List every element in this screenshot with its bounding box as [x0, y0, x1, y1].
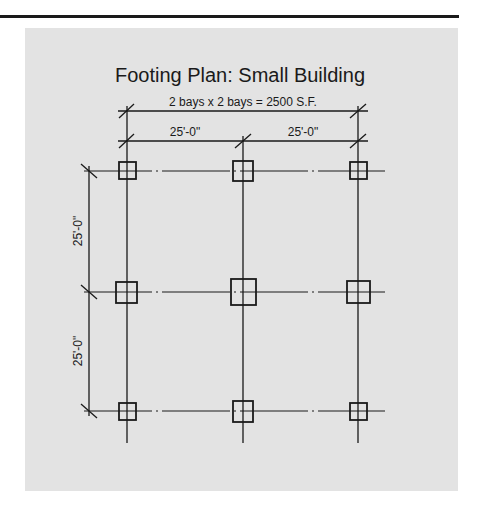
grid-lines — [84, 171, 385, 411]
footing-plan-diagram: Footing Plan: Small Building 2 bays x 2 … — [0, 0, 483, 523]
bay-dim-vertical-2: 25'-0" — [71, 336, 85, 367]
area-summary: 2 bays x 2 bays = 2500 S.F. — [169, 95, 317, 109]
bay-dim-vertical-1: 25'-0" — [71, 216, 85, 247]
bay-dim-horizontal-1: 25'-0" — [170, 125, 201, 139]
diagram-title: Footing Plan: Small Building — [115, 64, 365, 86]
dimension-lines — [81, 104, 368, 443]
bay-dim-horizontal-2: 25'-0" — [288, 125, 319, 139]
